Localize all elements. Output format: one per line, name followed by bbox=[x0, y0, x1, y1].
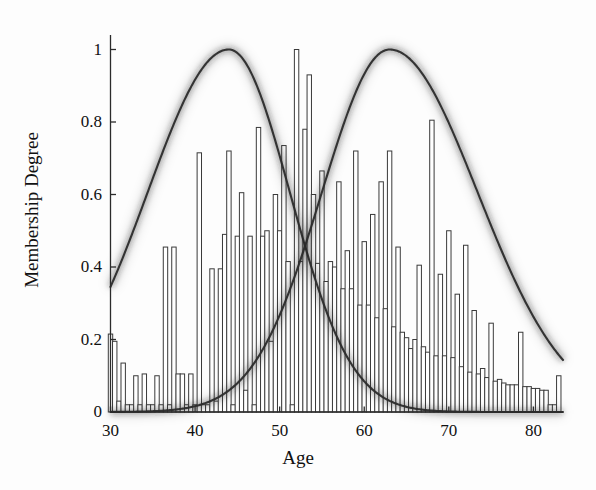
histogram-bar bbox=[163, 247, 167, 412]
x-axis-tick-label: 60 bbox=[356, 421, 373, 441]
y-axis-label-text: Membership Degree bbox=[21, 132, 43, 288]
y-axis-tick-label: 1 bbox=[52, 40, 102, 60]
x-axis-tick-label: 80 bbox=[525, 421, 542, 441]
histogram-bar bbox=[197, 153, 201, 412]
x-axis-tick-label: 30 bbox=[102, 421, 119, 441]
histogram-bar bbox=[210, 269, 214, 412]
y-axis-tick-label: 0.4 bbox=[52, 257, 102, 277]
x-axis-label: Age bbox=[0, 447, 596, 469]
y-axis-label: Membership Degree bbox=[12, 0, 52, 420]
y-axis-tick-label: 0 bbox=[52, 402, 102, 422]
x-axis-tick-label: 70 bbox=[440, 421, 457, 441]
histogram-bar bbox=[248, 236, 252, 412]
x-axis-tick-label: 50 bbox=[271, 421, 288, 441]
y-axis-tick-label: 0.2 bbox=[52, 330, 102, 350]
figure-canvas: 304050607080 00.20.40.60.81 Membership D… bbox=[0, 0, 596, 490]
x-axis-tick-label: 40 bbox=[187, 421, 204, 441]
histogram-bar bbox=[227, 151, 231, 412]
y-axis-tick-label: 0.8 bbox=[52, 112, 102, 132]
y-axis-tick-label: 0.6 bbox=[52, 185, 102, 205]
histogram-bar bbox=[557, 376, 561, 412]
